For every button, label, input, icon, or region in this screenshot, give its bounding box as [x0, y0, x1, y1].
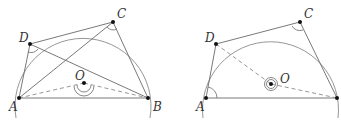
- label-c: C: [117, 7, 126, 21]
- angle-mark-o-outer: [74, 86, 94, 96]
- segment-ob-dashed: [271, 84, 337, 98]
- segment-cd: [216, 22, 300, 44]
- figure-right: A C D O: [195, 7, 339, 118]
- point-c: [111, 20, 115, 24]
- angle-mark-a: [208, 87, 217, 98]
- label-d: D: [204, 31, 215, 45]
- label-o: O: [75, 69, 85, 83]
- angle-mark-c: [292, 26, 303, 31]
- label-a: A: [8, 100, 18, 114]
- segment-bc: [300, 22, 337, 98]
- point-b: [335, 96, 339, 100]
- angle-mark-d: [28, 49, 38, 52]
- point-c: [298, 20, 302, 24]
- label-d: D: [18, 31, 29, 45]
- label-a: A: [195, 100, 205, 114]
- segment-do-dashed: [216, 44, 271, 84]
- angle-mark-o-inner: [77, 85, 91, 92]
- label-b: B: [152, 100, 162, 114]
- geometry-diagram: A B C D O A C D O: [0, 0, 341, 128]
- label-c: C: [304, 7, 313, 21]
- segment-ob-dashed: [84, 83, 148, 98]
- segment-bc: [113, 22, 148, 98]
- point-o: [269, 82, 273, 86]
- figure-left: A B C D O: [8, 7, 162, 118]
- label-o: O: [280, 72, 290, 86]
- point-b: [146, 96, 150, 100]
